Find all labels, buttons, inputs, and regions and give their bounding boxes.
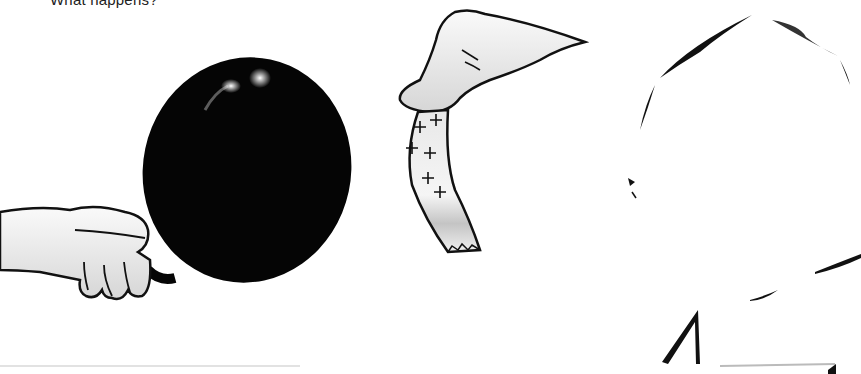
illustration	[0, 0, 861, 374]
paper-strip	[406, 110, 480, 252]
lower-figure	[0, 310, 836, 374]
right-hand	[400, 10, 585, 112]
balloon	[122, 38, 372, 302]
face-outline	[628, 15, 861, 301]
balloon-highlight	[249, 68, 271, 88]
left-hand	[0, 207, 150, 299]
